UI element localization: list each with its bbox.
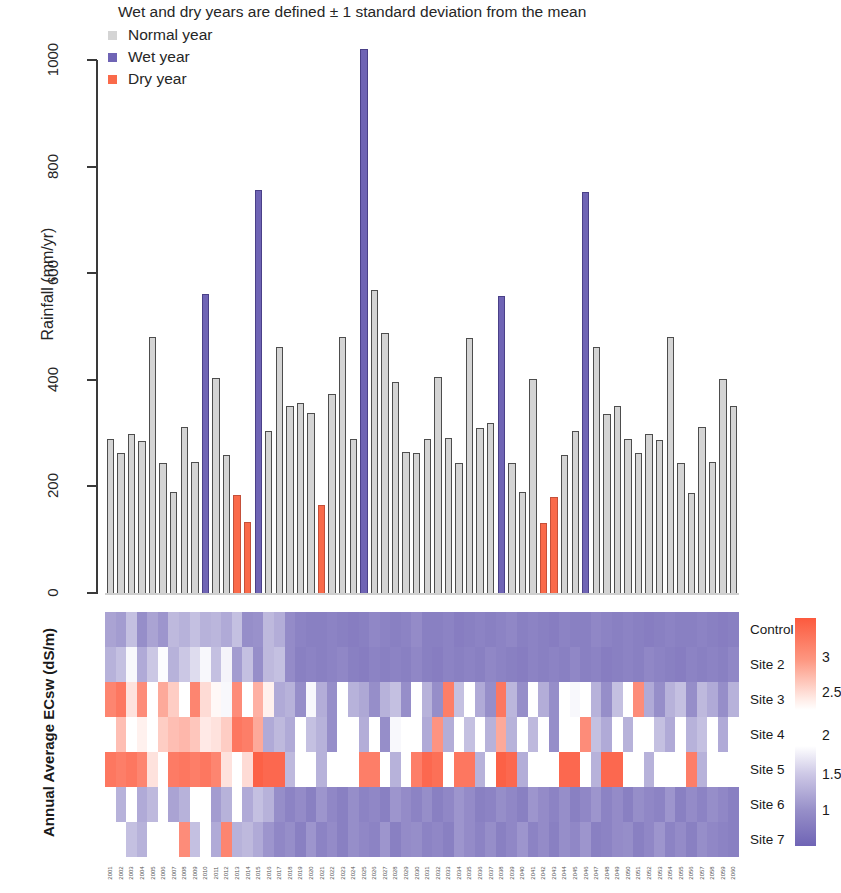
- heatmap-cell: [707, 612, 718, 647]
- heatmap-cell: [147, 612, 158, 647]
- heatmap-cell: [654, 717, 665, 752]
- x-tick-2047: 2047: [591, 860, 602, 892]
- colorbar-tick-2: 2: [822, 727, 830, 743]
- x-tick-2005: 2005: [147, 860, 158, 892]
- heatmap-cell: [475, 787, 486, 822]
- bar-2060: [730, 406, 737, 594]
- heatmap-cell: [306, 612, 317, 647]
- heatmap-cell: [654, 787, 665, 822]
- bar-2035: [466, 338, 473, 594]
- x-tick-label-2055: 2055: [678, 856, 684, 890]
- heatmap-cell: [517, 822, 528, 857]
- y-tick-label-1000: 1000: [44, 30, 61, 90]
- y-tick-800: [87, 166, 97, 168]
- heatmap-cell: [454, 647, 465, 682]
- x-tick-2036: 2036: [475, 860, 486, 892]
- x-tick-2051: 2051: [633, 860, 644, 892]
- colorbar-tick-3: 3: [822, 649, 830, 665]
- heatmap-cell: [612, 752, 623, 787]
- heatmap-cell: [369, 752, 380, 787]
- x-tick-2039: 2039: [506, 860, 517, 892]
- heatmap-cell: [432, 822, 443, 857]
- heatmap-cell: [506, 717, 517, 752]
- heatmap-cell: [686, 752, 697, 787]
- heatmap-cell: [263, 682, 274, 717]
- heatmap-cell: [496, 717, 507, 752]
- heatmap-cell: [580, 717, 591, 752]
- heatmap-cell: [644, 822, 655, 857]
- heatmap-cell: [633, 647, 644, 682]
- bar-2048: [603, 414, 610, 594]
- x-tick-label-2043: 2043: [551, 856, 557, 890]
- heatmap-cell: [686, 822, 697, 857]
- x-tick-label-2031: 2031: [424, 856, 430, 890]
- bar-2030: [413, 453, 420, 594]
- heatmap-cell: [274, 682, 285, 717]
- heatmap-cell: [147, 752, 158, 787]
- heatmap-cell: [654, 752, 665, 787]
- heatmap-cell: [454, 682, 465, 717]
- x-tick-label-2046: 2046: [583, 856, 589, 890]
- heatmap-cell: [380, 682, 391, 717]
- heatmap-cell: [274, 717, 285, 752]
- heatmap-cell: [126, 682, 137, 717]
- heatmap-cell: [686, 787, 697, 822]
- heatmap-cell: [665, 682, 676, 717]
- bar-2026: [371, 290, 378, 594]
- heatmap-cell: [591, 717, 602, 752]
- x-tick-label-2054: 2054: [667, 856, 673, 890]
- heatmap-cell: [200, 612, 211, 647]
- heatmap-cell: [633, 717, 644, 752]
- heatmap-cell: [327, 822, 338, 857]
- heatmap-cell: [253, 717, 264, 752]
- heatmap-cell: [644, 612, 655, 647]
- x-tick-label-2027: 2027: [382, 856, 388, 890]
- x-tick-label-2032: 2032: [435, 856, 441, 890]
- heatmap-cell: [179, 717, 190, 752]
- heatmap-row-site-6: [105, 787, 739, 822]
- heatmap-cell: [137, 717, 148, 752]
- heatmap-cell: [718, 612, 729, 647]
- heatmap-cell: [179, 682, 190, 717]
- heatmap-cell: [559, 717, 570, 752]
- x-tick-label-2002: 2002: [118, 856, 124, 890]
- heatmap-cell: [697, 717, 708, 752]
- heatmap-cell: [232, 682, 243, 717]
- heatmap-cell: [528, 612, 539, 647]
- x-tick-label-2060: 2060: [730, 856, 736, 890]
- heatmap-cell: [665, 612, 676, 647]
- heatmap-cell: [369, 647, 380, 682]
- heatmap-cell: [422, 612, 433, 647]
- heatmap-cell: [496, 787, 507, 822]
- heatmap-cell: [263, 647, 274, 682]
- heatmap-cell: [728, 822, 739, 857]
- heatmap-cell: [137, 822, 148, 857]
- heatmap-cell: [559, 682, 570, 717]
- bar-2043: [550, 497, 557, 594]
- heatmap-cell: [147, 822, 158, 857]
- heatmap-cell: [675, 822, 686, 857]
- heatmap-cell: [232, 822, 243, 857]
- heatmap-cell: [327, 612, 338, 647]
- heatmap-cell: [517, 682, 528, 717]
- bar-2010: [202, 294, 209, 594]
- heatmap-cell: [443, 752, 454, 787]
- bar-2046: [582, 192, 589, 594]
- bar-2011: [212, 378, 219, 594]
- heatmap-cell: [221, 822, 232, 857]
- x-tick-label-2051: 2051: [635, 856, 641, 890]
- heatmap-cell: [464, 822, 475, 857]
- heatmap-cell: [411, 717, 422, 752]
- heatmap-cell: [200, 752, 211, 787]
- heatmap-cell: [591, 752, 602, 787]
- heatmap-cell: [654, 612, 665, 647]
- heatmap-cell: [517, 647, 528, 682]
- heatmap-cell: [718, 647, 729, 682]
- heatmap-cell: [601, 682, 612, 717]
- heatmap-cell: [644, 647, 655, 682]
- x-tick-label-2044: 2044: [561, 856, 567, 890]
- heatmap-cell: [401, 787, 412, 822]
- x-tick-label-2033: 2033: [445, 856, 451, 890]
- heatmap-cell: [369, 787, 380, 822]
- x-tick-label-2019: 2019: [297, 856, 303, 890]
